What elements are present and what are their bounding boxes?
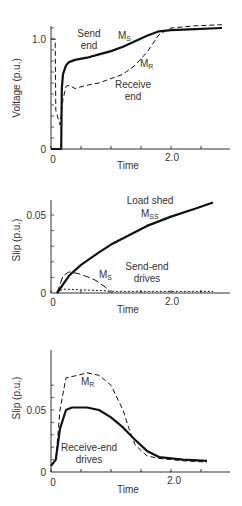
x-tick-label-2: 2.0: [165, 296, 179, 307]
x-tick-label-2: 2.0: [167, 475, 181, 486]
series-line: [51, 408, 207, 466]
y-tick-label-0: 0: [40, 288, 46, 299]
y-tick-label-1: 1.0: [32, 34, 46, 45]
annotation-receive: Receive: [115, 79, 152, 90]
x-tick-label-0: 0: [50, 154, 56, 165]
x-axis-label: Time: [117, 160, 139, 171]
annotation-send-end: Send-end: [125, 261, 168, 272]
series-line: [57, 289, 213, 293]
y-tick-label-005: 0.05: [27, 405, 47, 416]
y-axis-label: Voltage (p.u.): [11, 58, 22, 117]
y-tick-label-0: 0: [40, 467, 46, 478]
y-tick-label-005: 0.05: [27, 210, 47, 221]
annotation-load-shed: Load shed: [127, 195, 174, 206]
annotation-receive-end: end: [125, 91, 142, 102]
x-axis-label: Time: [117, 484, 139, 495]
annotation-mr: MR: [81, 376, 94, 388]
plot-slip-send-end: 0.05 0 0 2.0 Time Slip (p.u.) Load shed …: [11, 195, 230, 315]
annotation-drives: drives: [134, 273, 161, 284]
y-tick-label-0: 0: [40, 144, 46, 155]
annotation-ms: MS: [118, 30, 131, 42]
annotation-mr: MR: [140, 58, 153, 70]
figure: 1.0 0 0 2.0 Time Voltage (p.u.) Send end…: [0, 0, 242, 506]
plot-voltage: 1.0 0 0 2.0 Time Voltage (p.u.) Send end…: [11, 25, 230, 171]
annotation-send-end: end: [81, 40, 98, 51]
x-tick-label-0: 0: [50, 477, 56, 488]
annotation-send: Send: [77, 28, 100, 39]
annotation-mss: MSS: [141, 208, 159, 220]
x-axis-label: Time: [117, 304, 139, 315]
plot-slip-receive-end: 0.05 0 0 2.0 Time Slip (p.u.) MR Receive…: [11, 350, 230, 495]
x-tick-label-0: 0: [50, 297, 56, 308]
y-axis-label: Slip (p.u.): [11, 219, 22, 262]
annotation-drives: drives: [76, 454, 103, 465]
annotation-ms: MS: [99, 269, 112, 281]
y-axis-label: Slip (p.u.): [11, 377, 22, 420]
annotation-receive-end: Receive-end: [61, 442, 117, 453]
x-tick-label-2: 2.0: [165, 152, 179, 163]
